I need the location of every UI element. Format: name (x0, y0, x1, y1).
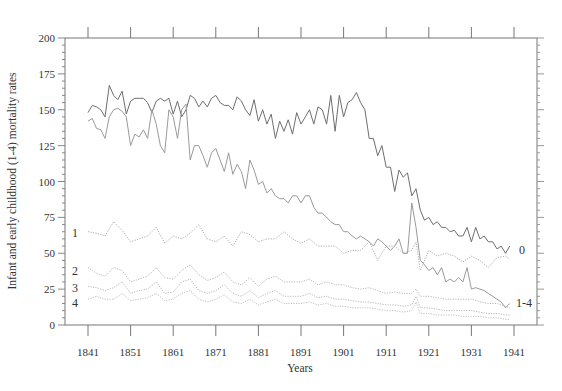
x-tick-label: 1861 (162, 346, 184, 358)
x-tick-label: 1941 (503, 346, 525, 358)
series-label-age-2: 2 (72, 264, 78, 278)
y-tick-label: 0 (50, 319, 56, 331)
series-label-age-3: 3 (72, 281, 78, 295)
x-axis-ticks: 1841185118611871188118911901191119211931… (77, 27, 525, 358)
x-tick-label: 1841 (77, 346, 99, 358)
series-label-1-4: 1-4 (516, 296, 532, 310)
series-line-1 (88, 222, 510, 271)
series-label-age-1: 1 (72, 226, 78, 240)
series-line-0 (88, 85, 510, 253)
y-tick-label: 175 (39, 68, 56, 80)
y-tick-label: 200 (39, 32, 56, 44)
mortality-chart: 1841185118611871188118911901191119211931… (0, 0, 562, 391)
series-line-1-4 (88, 104, 510, 308)
y-tick-label: 100 (39, 176, 56, 188)
y-axis-ticks: 0255075100125150175200 (39, 32, 545, 331)
series-lines (88, 85, 510, 319)
series-line-3 (88, 279, 510, 315)
x-tick-label: 1871 (205, 346, 227, 358)
x-axis-title: Years (287, 362, 313, 374)
x-tick-label: 1891 (290, 346, 312, 358)
x-tick-label: 1851 (120, 346, 142, 358)
y-tick-label: 125 (39, 140, 56, 152)
y-axis-title: Infant and early childhood (1-4) mortali… (6, 72, 19, 290)
x-tick-label: 1901 (333, 346, 355, 358)
series-line-4 (88, 291, 510, 320)
series-label-infant: 0 (519, 243, 525, 257)
y-tick-label: 150 (39, 104, 56, 116)
y-tick-label: 50 (44, 247, 56, 259)
y-tick-label: 75 (44, 211, 56, 223)
series-label-age-4: 4 (72, 296, 78, 310)
x-tick-label: 1931 (460, 346, 482, 358)
plot-frame (65, 38, 537, 325)
x-tick-label: 1911 (375, 346, 397, 358)
x-tick-label: 1881 (247, 346, 269, 358)
x-tick-label: 1921 (418, 346, 440, 358)
y-tick-label: 25 (44, 283, 56, 295)
